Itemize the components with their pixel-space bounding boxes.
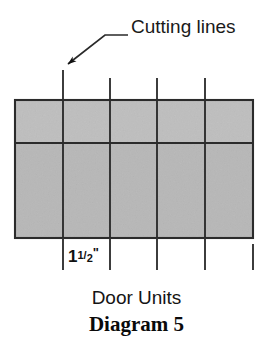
caption-subtitle: Diagram 5 <box>0 311 273 337</box>
callout-leader <box>68 35 128 64</box>
dimension-fraction: 1/2 <box>77 249 92 261</box>
dimension-unit: " <box>93 245 99 260</box>
caption-title: Door Units <box>0 286 273 310</box>
panel-lower-band <box>15 143 253 238</box>
dimension-numerator: 1 <box>77 249 83 261</box>
diagram-figure: Cutting lines 11/2" Door Units Diagram 5 <box>0 0 273 347</box>
cutting-lines-label: Cutting lines <box>131 16 236 38</box>
panel-upper-band <box>15 100 253 143</box>
arrow-icon <box>68 35 128 64</box>
cutting-lines-above <box>63 70 205 100</box>
width-dimension-label: 11/2" <box>68 243 99 268</box>
caption: Door Units Diagram 5 <box>0 286 273 337</box>
